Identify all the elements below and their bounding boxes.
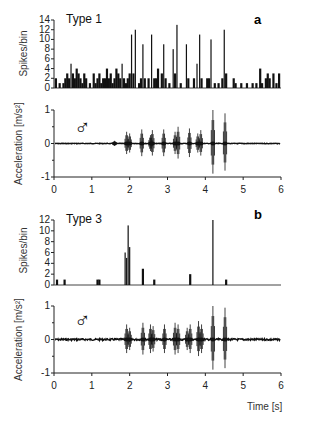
tick-label: 0 xyxy=(44,184,64,195)
panel-a-title: Type 1 xyxy=(66,12,102,26)
panel-b-title: Type 3 xyxy=(66,212,102,226)
tick-label: 4 xyxy=(195,184,215,195)
tick-label: 4 xyxy=(195,380,215,391)
tick-label: 5 xyxy=(233,184,253,195)
tick-label: 1 xyxy=(20,300,50,311)
tick-label: 10 xyxy=(20,225,50,236)
tick-label: 6 xyxy=(271,380,291,391)
tick-label: 2 xyxy=(120,380,140,391)
panel-a-letter: a xyxy=(254,12,261,27)
panel-b-letter: b xyxy=(254,207,262,222)
tick-label: 8 xyxy=(20,236,50,247)
tick-label: 14 xyxy=(20,14,50,25)
tick-label: 0 xyxy=(20,334,50,345)
male-symbol-icon-a: ♂ xyxy=(74,117,91,139)
tick-label: 1 xyxy=(20,104,50,115)
tick-label: 3 xyxy=(158,184,178,195)
tick-label: 2 xyxy=(20,72,50,83)
tick-label: 2 xyxy=(20,268,50,279)
tick-label: 3 xyxy=(158,380,178,391)
tick-label: 1 xyxy=(82,380,102,391)
tick-label: 8 xyxy=(20,43,50,54)
tick-label: 10 xyxy=(20,33,50,44)
tick-label: 6 xyxy=(20,53,50,64)
tick-label: 4 xyxy=(20,63,50,74)
spikes-histogram-type3 xyxy=(51,220,281,285)
tick-label: 0 xyxy=(20,82,50,93)
tick-label: 0 xyxy=(20,279,50,290)
tick-label: 6 xyxy=(20,247,50,258)
tick-label: 12 xyxy=(20,214,50,225)
tick-label: 6 xyxy=(271,184,291,195)
tick-label: 12 xyxy=(20,24,50,35)
tick-label: 1 xyxy=(82,184,102,195)
tick-label: -1 xyxy=(20,171,50,182)
tick-label: 0 xyxy=(20,138,50,149)
male-symbol-icon-b: ♂ xyxy=(74,310,91,332)
x-axis-label: Time [s] xyxy=(247,401,282,412)
tick-label: 2 xyxy=(120,184,140,195)
tick-label: 4 xyxy=(20,257,50,268)
tick-label: 0 xyxy=(44,380,64,391)
tick-label: 5 xyxy=(233,380,253,391)
tick-label: -1 xyxy=(20,367,50,378)
spikes-histogram-type1 xyxy=(51,20,281,88)
